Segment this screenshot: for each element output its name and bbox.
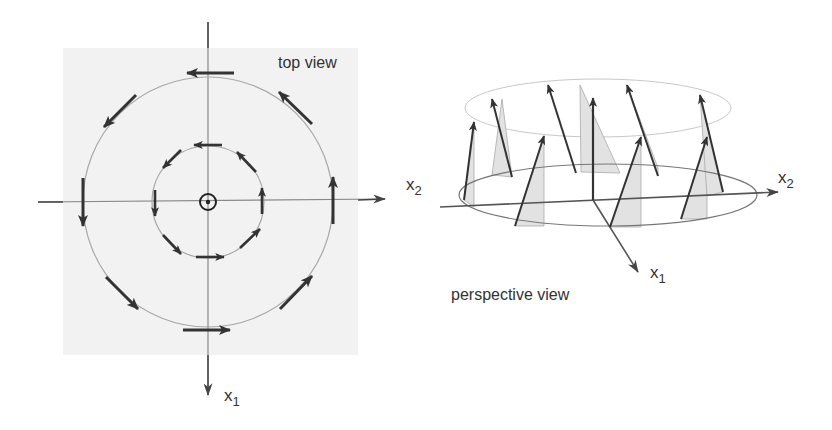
top-view-panel: top view x2 x1 bbox=[38, 22, 422, 409]
perspective-view-title: perspective view bbox=[451, 286, 570, 303]
axis-segment bbox=[358, 199, 385, 200]
x2-axis-persp bbox=[440, 192, 778, 207]
x2-label-top: x2 bbox=[406, 175, 422, 198]
top-view-title: top view bbox=[278, 54, 337, 71]
perspective-view-panel: x2 x1 perspective view bbox=[440, 79, 794, 303]
x1-label-persp: x1 bbox=[650, 263, 666, 286]
vortex-diagram: top view x2 x1 bbox=[0, 0, 832, 430]
x2-label-persp: x2 bbox=[778, 168, 794, 191]
vector-arrow-icon bbox=[548, 85, 576, 173]
x1-label-top: x1 bbox=[224, 386, 240, 409]
